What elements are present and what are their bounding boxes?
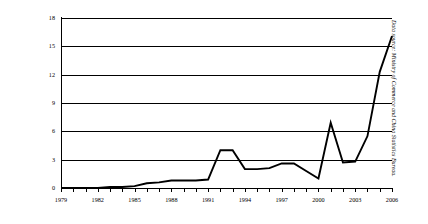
y-tick-label: 3	[30, 157, 55, 163]
y-axis-tick-labels: 0369121518	[0, 0, 428, 224]
x-tick	[245, 188, 246, 192]
x-tick	[318, 188, 319, 192]
y-tick-label: 18	[30, 15, 55, 21]
x-tick	[135, 188, 136, 192]
x-tick	[306, 188, 307, 192]
y-tick-label: 12	[30, 72, 55, 78]
x-tick	[196, 188, 197, 192]
x-tick-label: 1997	[262, 196, 302, 203]
x-tick	[86, 188, 87, 192]
x-tick	[380, 188, 381, 192]
x-tick	[220, 188, 221, 192]
x-tick-label: 1994	[225, 196, 265, 203]
x-tick	[159, 188, 160, 192]
source-note: Data source: Ministry of Commerce and Ch…	[386, 20, 398, 190]
x-tick-label: 2000	[298, 196, 338, 203]
y-tick-label: 0	[30, 185, 55, 191]
x-tick-label: 2006	[372, 196, 412, 203]
x-tick	[282, 188, 283, 192]
x-tick	[269, 188, 270, 192]
x-tick-label: 1991	[188, 196, 228, 203]
x-tick	[147, 188, 148, 192]
x-tick	[257, 188, 258, 192]
x-tick	[233, 188, 234, 192]
x-tick	[110, 188, 111, 192]
x-tick	[367, 188, 368, 192]
x-tick	[61, 188, 62, 192]
x-tick	[184, 188, 185, 192]
x-tick	[355, 188, 356, 192]
x-tick	[343, 188, 344, 192]
x-tick	[294, 188, 295, 192]
x-tick	[122, 188, 123, 192]
x-tick-label: 1979	[41, 196, 81, 203]
x-tick-label: 2003	[335, 196, 375, 203]
x-tick	[73, 188, 74, 192]
x-tick	[98, 188, 99, 192]
chart-figure: 0369121518 19791982198519881991199419972…	[0, 0, 428, 224]
x-tick-label: 1985	[115, 196, 155, 203]
x-tick-label: 1982	[78, 196, 118, 203]
x-tick-label: 1988	[151, 196, 191, 203]
x-tick	[171, 188, 172, 192]
x-tick	[208, 188, 209, 192]
y-tick-label: 6	[30, 128, 55, 134]
y-tick-label: 9	[30, 100, 55, 106]
y-tick-label: 15	[30, 43, 55, 49]
x-tick	[331, 188, 332, 192]
